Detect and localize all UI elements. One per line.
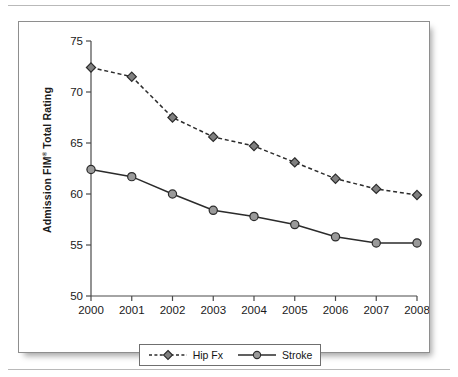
series-marker-hip-fx [249, 141, 258, 150]
series-marker-stroke [413, 239, 421, 247]
x-axis-tick-label: 2003 [200, 304, 226, 316]
page-root: Admission FIM® Total Rating 505560657075… [0, 0, 458, 377]
chart-legend: Hip Fx Stroke [139, 344, 321, 366]
legend-swatch-stroke [237, 349, 277, 361]
series-marker-hip-fx [127, 72, 136, 81]
legend-label-hip-fx: Hip Fx [193, 349, 223, 361]
y-axis-tick-label: 50 [70, 290, 83, 302]
y-axis-tick-label: 60 [70, 188, 83, 200]
series-marker-hip-fx [412, 190, 421, 199]
top-divider-rule [8, 5, 450, 6]
series-marker-stroke [291, 221, 299, 229]
legend-swatch-hip-fx [148, 349, 188, 361]
series-marker-hip-fx [209, 132, 218, 141]
series-marker-stroke [168, 190, 176, 198]
x-axis-tick-label: 2000 [78, 304, 104, 316]
series-line-stroke [91, 170, 417, 243]
series-marker-stroke [250, 212, 258, 220]
figure-container: Admission FIM® Total Rating 505560657075… [18, 21, 430, 353]
legend-label-stroke: Stroke [282, 349, 312, 361]
x-axis-tick-label: 2005 [282, 304, 308, 316]
x-axis-tick-label: 2001 [119, 304, 145, 316]
series-line-hip-fx [91, 68, 417, 196]
x-axis-tick-label: 2006 [323, 304, 349, 316]
series-marker-hip-fx [86, 63, 95, 72]
x-axis-tick-label: 2008 [404, 304, 429, 316]
y-axis-tick-label: 65 [70, 137, 83, 149]
y-axis-tick-label: 55 [70, 239, 83, 251]
series-marker-stroke [209, 206, 217, 214]
plot-area: Admission FIM® Total Rating 505560657075… [19, 22, 429, 352]
series-marker-hip-fx [290, 158, 299, 167]
series-marker-hip-fx [168, 113, 177, 122]
x-axis-tick-label: 2002 [160, 304, 186, 316]
x-axis-tick-label: 2004 [241, 304, 267, 316]
y-axis-tick-label: 70 [70, 86, 83, 98]
y-axis-tick-label: 75 [70, 35, 83, 47]
x-axis-tick-label: 2007 [363, 304, 389, 316]
series-marker-hip-fx [331, 174, 340, 183]
series-marker-stroke [128, 173, 136, 181]
legend-item-stroke[interactable]: Stroke [237, 349, 312, 361]
series-marker-stroke [331, 233, 339, 241]
series-marker-stroke [87, 165, 95, 173]
line-chart: 5055606570752000200120022003200420052006… [19, 22, 429, 352]
legend-item-hip-fx[interactable]: Hip Fx [148, 349, 223, 361]
series-marker-stroke [372, 239, 380, 247]
series-marker-hip-fx [372, 184, 381, 193]
bottom-divider-rule [8, 369, 450, 370]
